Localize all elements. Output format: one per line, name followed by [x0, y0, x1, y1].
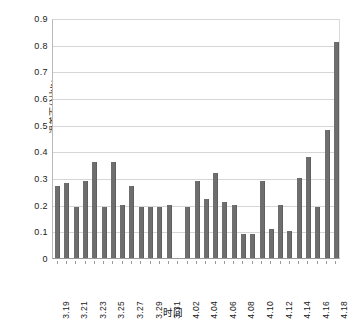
bar	[250, 234, 255, 258]
y-axis-tick-label: 0	[4, 254, 48, 264]
bar	[102, 207, 107, 258]
bar	[260, 181, 265, 258]
y-axis-tick-label: 0.3	[4, 174, 48, 184]
x-axis-tick-mark	[289, 261, 290, 264]
plot-area	[52, 19, 340, 259]
x-axis-tick-mark	[224, 261, 225, 264]
x-axis-tick-mark	[252, 261, 253, 264]
x-axis-label: 时间	[0, 305, 356, 319]
x-axis-label-text: 时间	[163, 307, 193, 318]
y-axis-tick-label: 0.4	[4, 147, 48, 157]
bar	[204, 199, 209, 258]
x-axis-tick-mark	[242, 261, 243, 264]
bar	[325, 130, 330, 258]
bar	[222, 202, 227, 258]
x-axis-tick-mark	[66, 261, 67, 264]
bar	[269, 229, 274, 258]
x-axis-tick-mark	[215, 261, 216, 264]
x-axis-tick-mark	[205, 261, 206, 264]
bar	[334, 42, 339, 258]
bar	[278, 205, 283, 258]
x-axis-tick-mark	[196, 261, 197, 264]
x-axis-tick-mark	[261, 261, 262, 264]
bar-series	[53, 20, 339, 258]
bar	[195, 181, 200, 258]
y-axis-tick-label: 0.9	[4, 14, 48, 24]
y-axis-tick-label: 0.5	[4, 121, 48, 131]
bar	[185, 207, 190, 258]
bar	[111, 162, 116, 258]
x-axis-tick-mark	[187, 261, 188, 264]
x-axis-tick-mark	[233, 261, 234, 264]
x-axis-tick-mark	[298, 261, 299, 264]
bar	[287, 231, 292, 258]
y-axis-tick-label: 0.2	[4, 201, 48, 211]
bar	[74, 207, 79, 258]
x-axis-tick-mark	[140, 261, 141, 264]
bar	[55, 186, 60, 258]
bar	[92, 162, 97, 258]
x-axis-tick-mark	[270, 261, 271, 264]
y-axis-tick-label: 0.7	[4, 67, 48, 77]
x-axis-tick-mark	[335, 261, 336, 264]
x-axis-tick-mark	[150, 261, 151, 264]
x-axis-tick-mark	[75, 261, 76, 264]
y-axis-tick-label: 0.1	[4, 227, 48, 237]
x-axis-tick-mark	[177, 261, 178, 264]
x-axis-tick-mark	[57, 261, 58, 264]
bar	[232, 205, 237, 258]
bar	[120, 205, 125, 258]
bar	[64, 183, 69, 258]
bar	[306, 157, 311, 258]
bar	[139, 207, 144, 258]
bar	[213, 173, 218, 258]
y-axis-tick-label: 0.8	[4, 41, 48, 51]
x-axis-tick-mark	[131, 261, 132, 264]
x-axis-tick-labels: 3.193.213.233.253.273.293.314.024.044.06…	[52, 261, 340, 305]
bar	[157, 207, 162, 258]
x-axis-tick-mark	[122, 261, 123, 264]
bar	[241, 234, 246, 258]
bar	[315, 207, 320, 258]
x-axis-tick-mark	[112, 261, 113, 264]
bar	[148, 207, 153, 258]
bar	[83, 181, 88, 258]
x-axis-tick-mark	[103, 261, 104, 264]
x-axis-tick-mark	[307, 261, 308, 264]
x-axis-tick-mark	[280, 261, 281, 264]
bar-chart: 误差百分比/% 00.10.20.30.40.50.60.70.80.9 3.1…	[0, 0, 356, 326]
x-axis-tick-mark	[85, 261, 86, 264]
bar	[297, 178, 302, 258]
x-axis-tick-mark	[326, 261, 327, 264]
y-axis-tick-label: 0.6	[4, 94, 48, 104]
bar	[129, 186, 134, 258]
bar	[167, 205, 172, 258]
x-axis-tick-mark	[94, 261, 95, 264]
x-axis-tick-mark	[168, 261, 169, 264]
x-axis-tick-mark	[317, 261, 318, 264]
x-axis-tick-mark	[159, 261, 160, 264]
